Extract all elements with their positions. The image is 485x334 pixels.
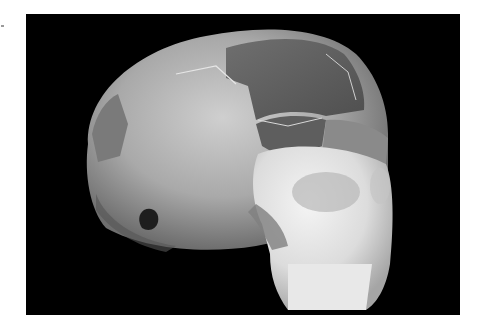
ear-opening <box>139 209 158 230</box>
skull-illustration <box>26 14 460 315</box>
eye-orbit-right <box>370 168 390 204</box>
margin-mark <box>1 25 4 27</box>
eye-orbit <box>292 172 360 212</box>
jaw <box>288 264 372 310</box>
skull-photograph: Photograph of a reconstructed fossil sku… <box>26 14 460 315</box>
